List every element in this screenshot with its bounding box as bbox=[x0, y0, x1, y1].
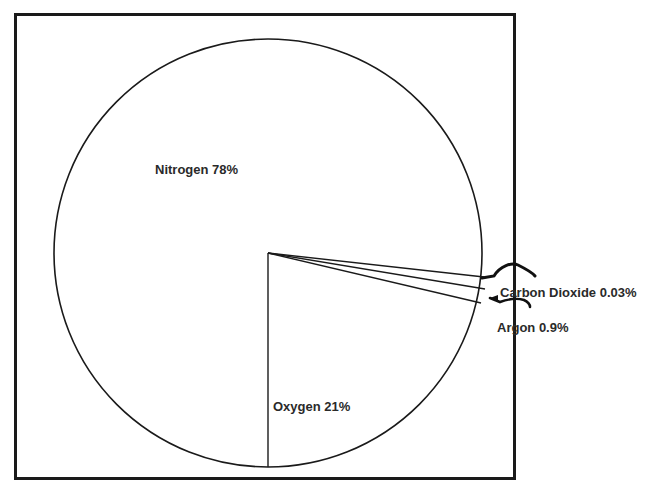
co2-pointer-arrow bbox=[482, 264, 535, 278]
carbon-dioxide-label: Carbon Dioxide 0.03% bbox=[500, 285, 637, 300]
oxygen-label: Oxygen 21% bbox=[273, 399, 350, 414]
nitrogen-label: Nitrogen 78% bbox=[155, 162, 238, 177]
argon-label: Argon 0.9% bbox=[497, 320, 569, 335]
pie-chart bbox=[0, 0, 663, 493]
